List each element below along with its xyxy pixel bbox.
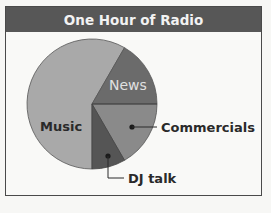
label-news: News: [109, 77, 147, 93]
label-dj-talk: DJ talk: [128, 171, 177, 186]
label-music: Music: [40, 119, 82, 134]
pie-chart: Music News Commercials DJ talk: [0, 0, 271, 213]
label-commercials: Commercials: [161, 120, 255, 135]
